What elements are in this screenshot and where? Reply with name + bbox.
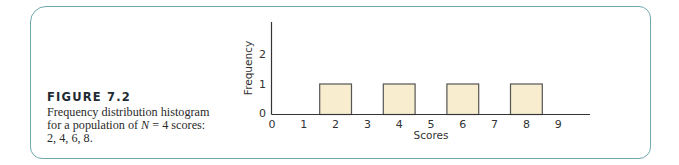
x-tick-label: 9 <box>555 118 562 131</box>
histogram-bar-8 <box>511 84 543 115</box>
histogram-bar-2 <box>320 84 352 115</box>
y-axis-label: Frequency <box>242 41 254 95</box>
y-tick-label: 2 <box>259 48 266 61</box>
x-tick-label: 6 <box>459 118 466 131</box>
histogram-bar-6 <box>447 84 479 115</box>
y-tick-label: 0 <box>259 107 266 120</box>
x-axis-label: Scores <box>414 129 449 141</box>
y-tick-label: 1 <box>259 78 266 91</box>
histogram-bar-4 <box>383 84 415 115</box>
y-tick-labels: 012 <box>259 48 266 120</box>
x-tick-label: 2 <box>332 118 339 131</box>
x-tick-label: 1 <box>300 118 307 131</box>
x-tick-label: 8 <box>523 118 530 131</box>
x-tick-label: 0 <box>269 118 276 131</box>
x-tick-label: 7 <box>491 118 498 131</box>
histogram-chart: 0123456789 012 Scores Frequency <box>0 0 679 165</box>
x-tick-label: 4 <box>396 118 403 131</box>
bars-group <box>320 84 543 115</box>
x-tick-label: 3 <box>364 118 371 131</box>
